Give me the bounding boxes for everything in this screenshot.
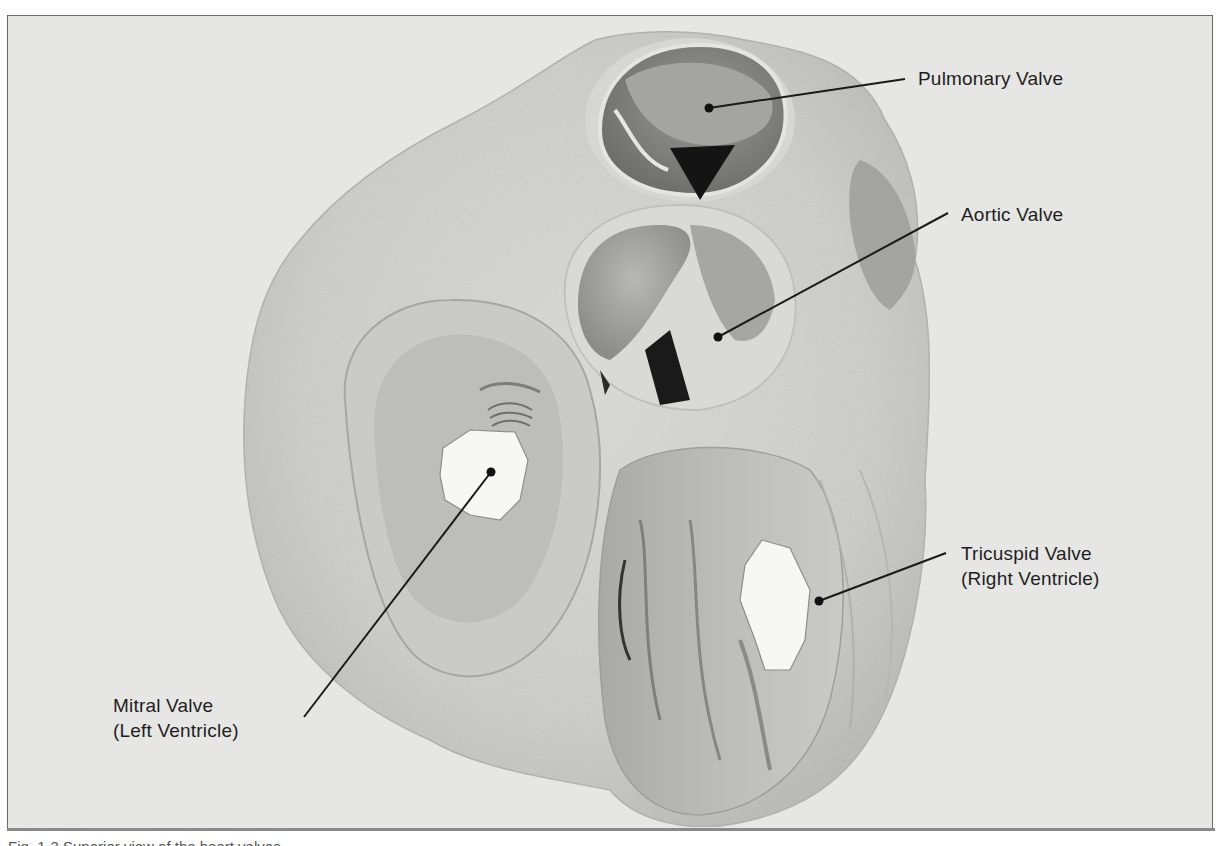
label-tricuspid-valve: Tricuspid Valve (Right Ventricle) bbox=[961, 541, 1100, 591]
label-mitral-line-1: Mitral Valve bbox=[113, 693, 239, 718]
label-pulmonary-valve: Pulmonary Valve bbox=[918, 66, 1063, 91]
tricuspid-pointer-dot bbox=[815, 597, 824, 606]
label-tricuspid-line-2: (Right Ventricle) bbox=[961, 566, 1100, 591]
mitral-pointer-dot bbox=[487, 468, 496, 477]
label-mitral-valve: Mitral Valve (Left Ventricle) bbox=[113, 693, 239, 743]
pulmonary-valve-region bbox=[585, 38, 795, 202]
aortic-pointer-dot bbox=[714, 333, 723, 342]
label-aortic-line-1: Aortic Valve bbox=[961, 202, 1063, 227]
pulmonary-pointer-dot bbox=[705, 104, 714, 113]
label-tricuspid-line-1: Tricuspid Valve bbox=[961, 541, 1100, 566]
label-aortic-valve: Aortic Valve bbox=[961, 202, 1063, 227]
figure-caption: Fig. 1-3 Superior view of the heart valv… bbox=[8, 838, 281, 846]
label-pulmonary-line-1: Pulmonary Valve bbox=[918, 66, 1063, 91]
label-mitral-line-2: (Left Ventricle) bbox=[113, 718, 239, 743]
